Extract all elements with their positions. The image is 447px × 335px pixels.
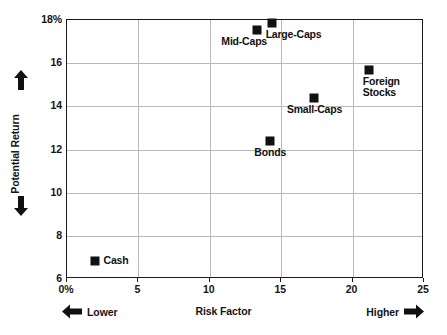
gridline-horizontal: [67, 193, 422, 194]
higher-caption: Higher: [366, 306, 399, 318]
gridline-horizontal: [67, 106, 422, 107]
y-axis-tick-label: 8: [0, 229, 62, 241]
x-axis-tick-mark: [280, 278, 281, 282]
x-axis-higher-annotation: Higher: [366, 304, 424, 319]
arrow-left-icon: [62, 304, 82, 319]
arrow-right-icon: [404, 304, 424, 319]
gridline-horizontal: [67, 236, 422, 237]
arrow-down-icon: [13, 196, 29, 216]
x-axis-tick-label: 15: [274, 283, 285, 295]
data-point-marker: [266, 136, 275, 145]
x-axis-tick-label: 20: [346, 283, 357, 295]
x-axis-tick-mark: [66, 278, 67, 282]
y-axis-tick-label: 16: [0, 56, 62, 68]
data-point-label: Mid-Caps: [221, 36, 267, 48]
arrow-up-icon: [13, 70, 29, 90]
x-axis-tick-label: 25: [417, 283, 428, 295]
gridline-vertical: [138, 20, 139, 277]
x-axis-lower-annotation: Lower: [62, 304, 117, 319]
data-point-marker: [253, 25, 262, 34]
data-point-marker: [90, 256, 99, 265]
x-axis-tick-mark: [352, 278, 353, 282]
lower-caption: Lower: [87, 306, 117, 318]
data-point-label: Bonds: [254, 147, 286, 159]
data-point-label: Foreign Stocks: [363, 76, 400, 99]
x-axis-tick-label: 5: [135, 283, 141, 295]
data-point-label: Small-Caps: [287, 104, 342, 116]
gridline-vertical: [353, 20, 354, 277]
x-axis-tick-mark: [137, 278, 138, 282]
data-point-marker: [310, 93, 319, 102]
plot-area: [66, 19, 423, 278]
gridline-horizontal: [67, 63, 422, 64]
x-axis-tick-label: 0%: [59, 283, 74, 295]
data-point-marker: [364, 65, 373, 74]
x-axis-tick-label: 10: [203, 283, 214, 295]
gridline-vertical: [210, 20, 211, 277]
risk-return-scatter-chart: 681012141618% 0%510152025 CashBondsMid-C…: [0, 0, 447, 335]
x-axis-tick-mark: [209, 278, 210, 282]
y-axis-tick-label: 6: [0, 272, 62, 284]
data-point-label: Large-Caps: [266, 29, 322, 41]
x-axis-tick-mark: [423, 278, 424, 282]
data-point-label: Cash: [104, 255, 129, 267]
y-axis-tick-label: 18%: [0, 13, 62, 25]
data-point-marker: [267, 19, 276, 28]
gridline-horizontal: [67, 150, 422, 151]
